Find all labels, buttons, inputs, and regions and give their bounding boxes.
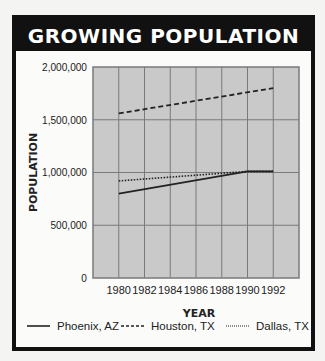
x-tick-label: 1992 bbox=[261, 284, 285, 296]
y-tick-label: 2,000,000 bbox=[42, 61, 87, 73]
legend-label: Houston, TX bbox=[151, 320, 215, 332]
x-tick-label: 1982 bbox=[132, 284, 156, 296]
y-tick-label: 0 bbox=[81, 272, 87, 284]
x-tick-label: 1984 bbox=[158, 284, 182, 296]
x-tick-label: 1988 bbox=[210, 284, 234, 296]
x-tick-label: 1990 bbox=[235, 284, 259, 296]
y-tick-label: 500,000 bbox=[50, 219, 87, 231]
y-tick-label: 1,000,000 bbox=[42, 166, 87, 178]
x-tick-label: 1986 bbox=[184, 284, 208, 296]
legend-label: Phoenix, AZ bbox=[57, 320, 119, 332]
legend-label: Dallas, TX bbox=[256, 320, 309, 332]
x-tick-label: 1980 bbox=[107, 284, 131, 296]
x-axis-title: YEAR bbox=[182, 307, 216, 320]
y-tick-label: 1,500,000 bbox=[42, 113, 87, 125]
y-axis-title: POPULATION bbox=[27, 133, 40, 212]
line-chart: 2,000,0001,500,0001,000,000500,000019801… bbox=[0, 0, 325, 361]
